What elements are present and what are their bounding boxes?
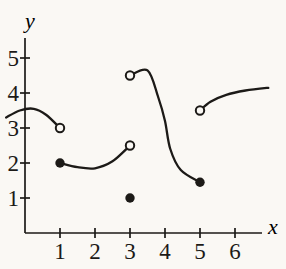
x-tick-label: 6 (229, 239, 241, 264)
curve-branch-2 (60, 146, 130, 169)
y-axis-label: y (19, 9, 41, 33)
function-graph-figure: 12345612345 y x (0, 0, 286, 269)
x-tick-label: 5 (194, 239, 206, 264)
y-tick-label: 3 (8, 116, 20, 141)
open-endpoint (56, 124, 64, 132)
y-tick-label: 1 (8, 186, 20, 211)
curve-branch-3 (130, 69, 200, 182)
y-tick-label: 2 (8, 151, 20, 176)
open-endpoint (126, 141, 134, 149)
piecewise-function-plot: 12345612345 (0, 0, 286, 269)
closed-endpoint (55, 158, 64, 167)
curve-branch-4 (200, 88, 268, 111)
open-endpoint (196, 106, 204, 114)
y-tick-label: 5 (8, 46, 20, 71)
x-axis-label: x (262, 215, 284, 239)
closed-endpoint (125, 193, 134, 202)
x-tick-label: 3 (124, 239, 136, 264)
x-tick-label: 1 (54, 239, 66, 264)
open-endpoint (126, 71, 134, 79)
x-tick-label: 2 (89, 239, 101, 264)
x-tick-label: 4 (159, 239, 171, 264)
y-tick-label: 4 (8, 81, 20, 106)
closed-endpoint (195, 178, 204, 187)
